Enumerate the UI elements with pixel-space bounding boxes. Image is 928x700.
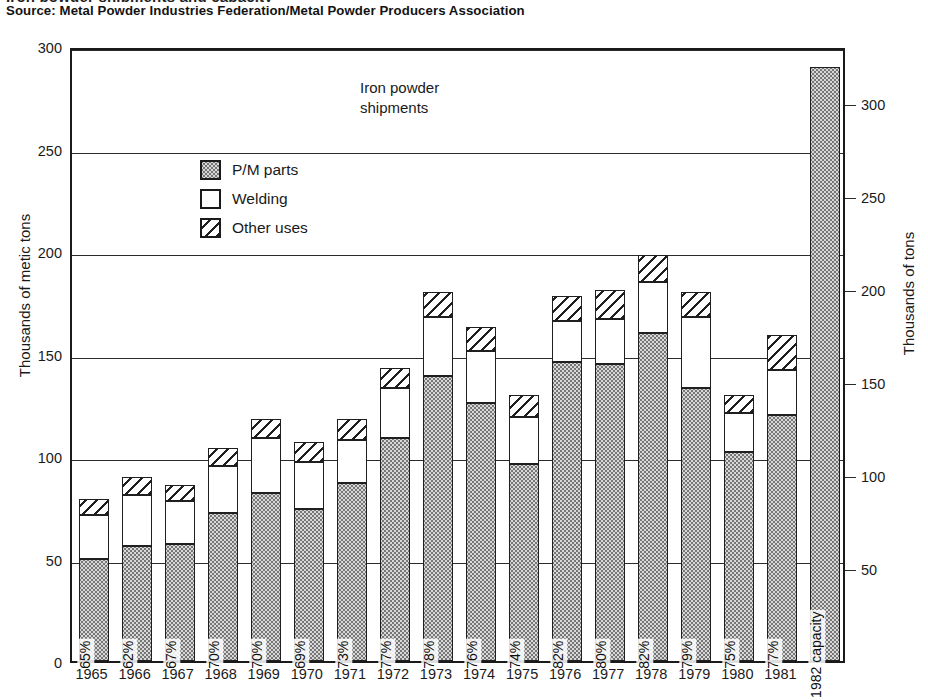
bar-segment-pm-parts — [810, 67, 840, 662]
bar-segment-other-uses — [337, 419, 367, 440]
y-tick-left-250: 250 — [16, 143, 62, 159]
x-tick-1976: 1976 — [549, 666, 581, 682]
bar-segment-welding — [423, 317, 453, 376]
bar-segment-welding — [294, 462, 324, 509]
x-tick-1979: 1979 — [678, 666, 710, 682]
bar-1971[interactable]: 73% — [337, 419, 367, 661]
bar-segment-other-uses — [595, 290, 625, 319]
bar-1979[interactable]: 79% — [681, 292, 711, 661]
bar-1972[interactable]: 77% — [380, 368, 410, 661]
y-tick-right-100: 100 — [861, 469, 885, 485]
legend-item-welding[interactable]: Welding — [200, 184, 370, 213]
bar-1981[interactable]: 77% — [767, 335, 797, 661]
bar-segment-other-uses — [423, 292, 453, 317]
y-tick-right-mark-50 — [845, 570, 856, 571]
y-tick-left-50: 50 — [16, 553, 62, 569]
x-tick-1970: 1970 — [291, 666, 323, 682]
bar-segment-pm-parts — [724, 452, 754, 661]
y-tick-left-100: 100 — [16, 450, 62, 466]
x-tick-1969: 1969 — [248, 666, 280, 682]
x-tick-1966: 1966 — [118, 666, 150, 682]
bar-segment-pm-parts — [251, 493, 281, 661]
bar-segment-other-uses — [681, 292, 711, 317]
y-axis-left-label: Thousands of metic tons — [16, 176, 33, 416]
gridline-200 — [72, 255, 843, 256]
bar-1970[interactable]: 69% — [294, 442, 324, 661]
bar-segment-pm-parts — [466, 403, 496, 661]
x-tick-1973: 1973 — [420, 666, 452, 682]
bar-segment-other-uses — [294, 442, 324, 463]
bar-1969[interactable]: 70% — [251, 419, 281, 661]
bar-segment-welding — [79, 515, 109, 558]
bar-1966[interactable]: 62% — [122, 477, 152, 662]
bar-1974[interactable]: 76% — [466, 327, 496, 661]
bar-segment-welding — [165, 501, 195, 544]
chart-title-cropped: Iron powder shipments and capacity — [6, 0, 706, 2]
y-tick-right-50: 50 — [861, 562, 877, 578]
bar-segment-other-uses — [165, 485, 195, 501]
gridline-150 — [72, 358, 843, 359]
bar-segment-welding — [638, 282, 668, 333]
plot-area: 65%62%67%70%70%69%73%77%78%76%74%82%80%8… — [70, 48, 845, 663]
bar-segment-other-uses — [79, 499, 109, 515]
y-axis-right-label: Thousands of tons — [900, 174, 917, 414]
y-tick-right-200: 200 — [861, 283, 885, 299]
y-tick-right-mark-200 — [845, 291, 856, 292]
bar-segment-pm-parts — [552, 362, 582, 661]
bar-segment-other-uses — [380, 368, 410, 389]
x-tick-1974: 1974 — [463, 666, 495, 682]
y-tick-right-150: 150 — [861, 376, 885, 392]
bar-segment-welding — [122, 495, 152, 546]
plot-annotation: Iron powder shipments — [360, 78, 439, 118]
bar-1982-capacity[interactable]: 1982 capacity — [810, 67, 840, 662]
bar-1976[interactable]: 82% — [552, 296, 582, 661]
bar-segment-other-uses — [466, 327, 496, 352]
x-tick-1981: 1981 — [764, 666, 796, 682]
bar-segment-pm-parts — [681, 388, 711, 661]
y-tick-left-0: 0 — [16, 655, 62, 671]
bar-segment-pm-parts — [337, 483, 367, 661]
chart-title-text: Iron powder shipments and capacity — [6, 0, 706, 2]
bar-segment-other-uses — [552, 296, 582, 321]
bar-1973[interactable]: 78% — [423, 292, 453, 661]
legend-swatch-hatched-icon — [200, 218, 221, 238]
y-tick-right-mark-300 — [845, 105, 856, 106]
x-tick-1977: 1977 — [592, 666, 624, 682]
source-line: Source: Metal Powder Industries Federati… — [6, 3, 525, 18]
bar-segment-pm-parts — [767, 415, 797, 661]
annotation-line-2: shipments — [360, 98, 439, 118]
x-tick-1965: 1965 — [75, 666, 107, 682]
bar-1977[interactable]: 80% — [595, 290, 625, 661]
bar-segment-welding — [337, 440, 367, 483]
bar-segment-pm-parts — [509, 464, 539, 661]
bar-segment-welding — [595, 319, 625, 364]
bar-segment-other-uses — [724, 395, 754, 413]
y-tick-right-250: 250 — [861, 190, 885, 206]
legend-label: Other uses — [232, 219, 308, 237]
x-tick-1972: 1972 — [377, 666, 409, 682]
bar-segment-welding — [466, 351, 496, 402]
bar-1968[interactable]: 70% — [208, 448, 238, 661]
bar-segment-welding — [251, 438, 281, 493]
y-tick-right-mark-100 — [845, 477, 856, 478]
legend-item-other-uses[interactable]: Other uses — [200, 213, 370, 242]
bar-segment-other-uses — [509, 395, 539, 418]
bar-segment-welding — [767, 370, 797, 415]
bar-1978[interactable]: 82% — [638, 255, 668, 661]
bar-1965[interactable]: 65% — [79, 499, 109, 661]
x-tick-1978: 1978 — [635, 666, 667, 682]
bar-segment-other-uses — [638, 255, 668, 282]
bar-segment-welding — [380, 388, 410, 437]
bar-1967[interactable]: 67% — [165, 485, 195, 661]
x-tick-1967: 1967 — [161, 666, 193, 682]
bar-1975[interactable]: 74% — [509, 395, 539, 662]
x-tick-1980: 1980 — [721, 666, 753, 682]
bar-1980[interactable]: 75% — [724, 395, 754, 662]
legend-swatch-dotted-icon — [200, 160, 221, 180]
legend-label: Welding — [232, 190, 288, 208]
x-tick-1975: 1975 — [506, 666, 538, 682]
bar-segment-other-uses — [767, 335, 797, 370]
bar-segment-welding — [681, 317, 711, 389]
x-axis: 1965196619671968196919701971197219731974… — [70, 666, 845, 689]
legend-item-p-m-parts[interactable]: P/M parts — [200, 155, 370, 184]
